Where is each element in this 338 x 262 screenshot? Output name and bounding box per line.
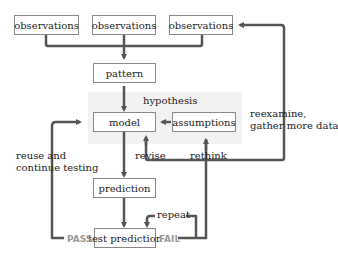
reexamine-label-2: gather more data	[250, 120, 338, 132]
revise-label: revise	[135, 150, 166, 162]
observations-box-3: observations	[169, 15, 233, 35]
test-prediction-box: test prediction	[94, 228, 156, 248]
observations-box-2: observations	[92, 15, 156, 35]
reuse-label-1: reuse and	[16, 150, 66, 162]
observations-box-1: observations	[14, 15, 79, 35]
model-box: model	[93, 112, 156, 132]
reuse-label-2: continue testing	[16, 162, 98, 174]
rethink-label: rethink	[190, 150, 227, 162]
prediction-box: prediction	[93, 178, 156, 198]
fail-label: FAIL	[159, 233, 180, 245]
assumptions-box: assumptions	[172, 112, 236, 132]
hypothesis-label: hypothesis	[143, 95, 197, 107]
reexamine-label-1: reexamine,	[250, 108, 306, 120]
pattern-box: pattern	[93, 63, 156, 83]
repeat-label: repeat	[157, 209, 190, 221]
pass-label: PASS	[67, 233, 92, 245]
